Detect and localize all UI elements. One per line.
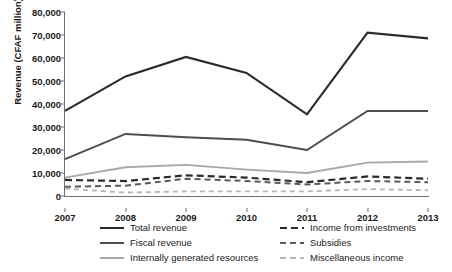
series-line [65,33,428,115]
x-axis-tick-mark [307,208,308,212]
x-axis-tick-mark [186,208,187,212]
y-axis-tick-label: 60,000 [32,53,61,64]
series-line [65,189,428,193]
legend-item[interactable]: Subsidies [280,235,452,250]
x-axis-tick-mark [65,208,66,212]
legend-item-label: Income from investments [310,222,416,233]
x-axis-tick-mark [367,208,368,212]
y-axis-tick-label: 30,000 [32,122,61,133]
y-axis-tick-label: 20,000 [32,145,61,156]
legend-item[interactable]: Internally generated resources [100,250,280,265]
revenue-line-chart: Revenue (CFAF million) 010,00020,00030,0… [0,0,452,272]
x-axis-tick-mark [125,208,126,212]
y-axis-tick-label: 70,000 [32,30,61,41]
series-line [65,179,428,187]
x-axis-tick-mark [246,208,247,212]
legend-swatch-icon [100,257,124,259]
y-axis-tick-label: 50,000 [32,76,61,87]
legend-swatch-icon [100,242,124,244]
y-axis-tick-label: 10,000 [32,168,61,179]
legend-item[interactable]: Fiscal revenue [100,235,280,250]
legend-item-label: Total revenue [130,222,187,233]
series-line [65,162,428,178]
legend-swatch-icon [280,227,304,229]
legend-column-left: Total revenueFiscal revenueInternally ge… [100,220,280,265]
legend-swatch-icon [100,227,124,229]
x-axis-line [64,196,429,197]
y-axis-tick-label: 40,000 [32,99,61,110]
legend-item[interactable]: Income from investments [280,220,452,235]
chart-legend: Total revenueFiscal revenueInternally ge… [100,220,450,268]
legend-item-label: Subsidies [310,237,351,248]
legend-column-right: Income from investmentsSubsidiesMiscella… [280,220,452,265]
legend-item[interactable]: Total revenue [100,220,280,235]
series-line [65,111,428,159]
legend-item-label: Internally generated resources [130,252,258,263]
x-axis-tick-mark [428,208,429,212]
series-lines [65,12,428,196]
y-axis-title: Revenue (CFAF million) [12,0,23,127]
plot-area: 010,00020,00030,00040,00050,00060,00070,… [65,12,428,196]
legend-item[interactable]: Miscellaneous income [280,250,452,265]
legend-swatch-icon [280,242,304,244]
legend-swatch-icon [280,257,304,259]
legend-item-label: Fiscal revenue [130,237,192,248]
legend-item-label: Miscellaneous income [310,252,403,263]
x-axis-tick-label: 2007 [54,212,75,223]
y-axis-tick-label: 80,000 [32,7,61,18]
